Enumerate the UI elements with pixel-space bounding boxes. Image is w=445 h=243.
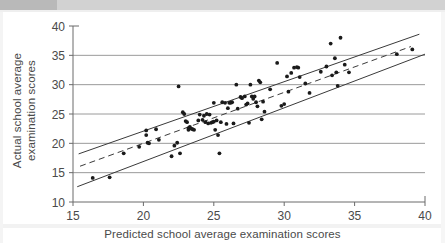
data-point (226, 106, 230, 110)
data-point (198, 113, 202, 117)
data-point (347, 70, 351, 74)
y-tick-label: 15 (52, 166, 66, 180)
data-point (282, 102, 286, 106)
data-point (253, 95, 257, 99)
data-point (234, 83, 238, 87)
data-point (230, 100, 234, 104)
data-point (256, 104, 260, 108)
x-tick-label: 20 (137, 209, 151, 223)
axis-ticks (69, 26, 425, 206)
data-point (329, 42, 333, 46)
data-point (177, 85, 181, 89)
data-point (175, 141, 179, 145)
data-point (178, 151, 182, 155)
data-point (213, 128, 217, 132)
data-point (339, 36, 343, 40)
data-point (334, 70, 338, 74)
data-point (289, 71, 293, 75)
data-point (122, 151, 126, 155)
y-tick-label: 30 (52, 78, 66, 92)
data-point (192, 128, 196, 132)
data-point (137, 145, 141, 149)
data-point (249, 83, 253, 87)
data-point (185, 120, 189, 124)
y-tick-label: 40 (52, 20, 66, 34)
data-point (330, 73, 334, 77)
data-point (182, 112, 186, 116)
data-point (247, 121, 251, 125)
y-tick-label: 20 (52, 137, 66, 151)
y-tick-label: 35 (52, 49, 66, 63)
data-point (287, 90, 291, 94)
data-point (172, 144, 176, 148)
data-point (296, 66, 300, 70)
data-point (254, 100, 258, 104)
y-axis-title-line1: Actual school average (11, 36, 25, 186)
data-point (147, 141, 151, 145)
x-tick-label: 25 (207, 209, 221, 223)
x-tick-label: 40 (418, 209, 432, 223)
data-point (325, 65, 329, 69)
y-tick-label: 25 (52, 108, 66, 122)
data-point (232, 121, 236, 125)
data-point (395, 52, 399, 56)
data-point (218, 151, 222, 155)
data-point (343, 63, 347, 67)
data-point (258, 80, 262, 84)
data-point (336, 84, 340, 88)
data-point (144, 129, 148, 133)
data-point (285, 75, 289, 79)
trend-lines (77, 34, 425, 187)
data-point (263, 110, 267, 114)
data-point (144, 133, 148, 137)
data-point (216, 133, 220, 137)
lower-confidence-band (77, 54, 425, 187)
data-point (298, 75, 302, 79)
data-point (170, 154, 174, 158)
data-point (223, 101, 227, 105)
data-point (308, 91, 312, 95)
chart-figure: 10152025303540152025303540 Actual school… (0, 0, 445, 243)
y-axis-title: Actual school average examination scores (11, 36, 38, 186)
data-point (275, 61, 279, 65)
data-point (236, 107, 240, 111)
y-tick-label: 10 (52, 196, 66, 210)
scatter-plot: 10152025303540152025303540 (0, 0, 445, 243)
data-points (91, 36, 414, 180)
data-point (319, 70, 323, 74)
x-tick-label: 30 (278, 209, 292, 223)
data-point (196, 119, 200, 123)
y-axis-title-line2: examination scores (24, 36, 38, 186)
data-point (260, 117, 264, 121)
data-point (219, 120, 223, 124)
data-point (261, 100, 265, 104)
x-tick-label: 15 (66, 209, 80, 223)
data-point (410, 48, 414, 52)
data-point (303, 82, 307, 86)
data-point (91, 176, 95, 180)
data-point (246, 102, 250, 106)
data-point (157, 138, 161, 142)
data-point (108, 175, 112, 179)
data-point (333, 56, 337, 60)
data-point (154, 127, 158, 131)
data-point (268, 87, 272, 91)
x-axis-title: Predicted school average examination sco… (0, 228, 445, 240)
data-point (212, 101, 216, 105)
data-point (208, 113, 212, 117)
x-tick-label: 35 (348, 209, 362, 223)
data-point (243, 95, 247, 99)
gridlines (73, 55, 425, 172)
data-point (215, 119, 219, 123)
data-point (225, 122, 229, 126)
upper-confidence-band (79, 34, 420, 154)
